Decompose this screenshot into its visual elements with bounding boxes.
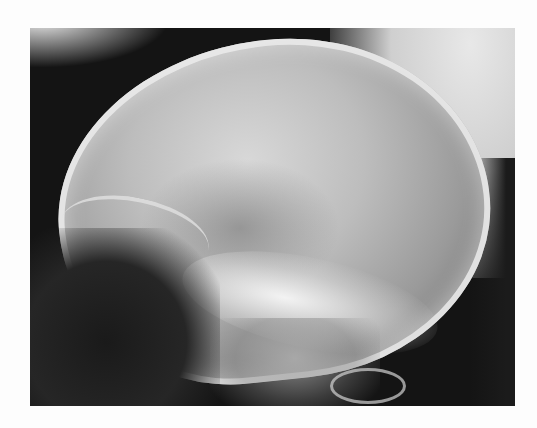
film-exposure-glow	[30, 28, 170, 68]
mastoid-process	[330, 368, 406, 404]
xray-image	[30, 28, 515, 406]
